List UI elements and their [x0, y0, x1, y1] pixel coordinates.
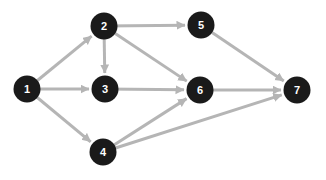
node-3: 3 — [92, 76, 119, 103]
node-5: 5 — [188, 12, 215, 39]
node-4: 4 — [90, 139, 117, 166]
graph-diagram: 1234567 — [0, 0, 326, 180]
node-2: 2 — [91, 13, 118, 40]
node-circle-3 — [92, 76, 119, 103]
edge-2-6 — [104, 26, 187, 81]
node-6: 6 — [187, 77, 214, 104]
node-circle-7 — [284, 77, 311, 104]
node-circle-4 — [90, 139, 117, 166]
node-1: 1 — [14, 76, 41, 103]
node-circle-6 — [187, 77, 214, 104]
edge-5-7 — [201, 25, 284, 81]
node-7: 7 — [284, 77, 311, 104]
node-circle-2 — [91, 13, 118, 40]
node-circle-5 — [188, 12, 215, 39]
node-circle-1 — [14, 76, 41, 103]
edge-4-7 — [103, 95, 282, 152]
graph-canvas: 1234567 — [0, 0, 326, 180]
edge-4-6 — [103, 99, 187, 152]
